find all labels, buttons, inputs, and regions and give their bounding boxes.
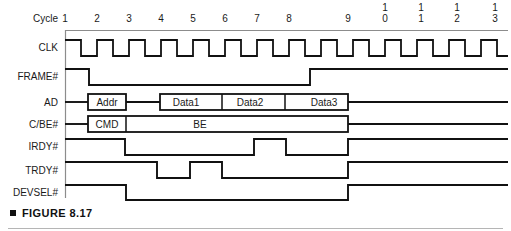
cycle-tick-7: 7	[254, 13, 260, 24]
timing-diagram: Cycle 1 2 3 4 5 6 7 8 9 1 0 1 1 1 2 1 3 …	[0, 0, 511, 204]
waveform-irdy	[65, 139, 508, 155]
waveform-devsel	[65, 185, 508, 200]
cycle-tick-2: 2	[94, 13, 100, 24]
figure-caption-text: FIGURE 8.17	[22, 207, 92, 219]
cycle-tick-8: 8	[286, 13, 292, 24]
cycle-tick-13-bottom: 3	[492, 13, 498, 24]
cycle-tick-11-top: 1	[418, 2, 424, 13]
cycle-tick-13-top: 1	[492, 2, 498, 13]
signal-label-trdy: TRDY#	[25, 165, 58, 176]
cbe-box-be-label: BE	[193, 119, 207, 130]
cycle-tick-10-bottom: 0	[382, 13, 388, 24]
cycle-axis-label: Cycle	[33, 13, 58, 24]
figure-caption: FIGURE 8.17	[10, 207, 92, 219]
cycle-tick-9: 9	[345, 13, 351, 24]
signal-label-devsel: DEVSEL#	[13, 187, 58, 198]
ad-box-data3-label: Data3	[311, 97, 338, 108]
cycle-tick-12-bottom: 2	[454, 13, 460, 24]
cycle-tick-1: 1	[62, 13, 68, 24]
signal-label-irdy: IRDY#	[29, 141, 59, 152]
caption-divider	[8, 228, 503, 229]
signal-label-clk: CLK	[39, 42, 59, 53]
cycle-tick-4: 4	[158, 13, 164, 24]
cycle-tick-3: 3	[126, 13, 132, 24]
waveform-cbe: CMD BE	[65, 116, 508, 132]
signal-label-cbe: C/BE#	[29, 119, 58, 130]
figure-container: Cycle 1 2 3 4 5 6 7 8 9 1 0 1 1 1 2 1 3 …	[0, 0, 511, 231]
waveform-frame	[65, 69, 508, 85]
cycle-tick-5: 5	[190, 13, 196, 24]
cycle-tick-12-top: 1	[454, 2, 460, 13]
cbe-box-group	[88, 116, 348, 132]
signal-label-ad: AD	[44, 97, 58, 108]
signal-label-frame: FRAME#	[17, 71, 58, 82]
square-bullet-icon	[10, 210, 16, 216]
ad-box-addr-label: Addr	[96, 97, 118, 108]
ad-box-data1-label: Data1	[173, 97, 200, 108]
cycle-tick-6: 6	[222, 13, 228, 24]
cbe-box-cmd-label: CMD	[96, 119, 119, 130]
waveform-trdy	[65, 162, 508, 178]
cycle-tick-10-top: 1	[382, 2, 388, 13]
ad-box-data2-label: Data2	[237, 97, 264, 108]
figure-caption-bar: FIGURE 8.17	[0, 204, 511, 231]
waveform-clk	[65, 40, 508, 56]
cycle-tick-11-bottom: 1	[418, 13, 424, 24]
waveform-ad: Addr Data1 Data2 Data3	[65, 94, 508, 110]
